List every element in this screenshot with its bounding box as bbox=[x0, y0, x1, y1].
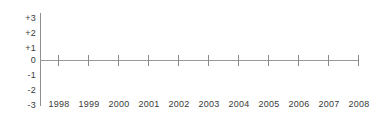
x-tick-label-2000: 2000 bbox=[109, 99, 130, 109]
x-tick-mark bbox=[208, 55, 209, 66]
x-tick-mark bbox=[178, 55, 179, 66]
y-tick-label-plus2: +2 bbox=[0, 29, 36, 38]
x-tick-label-2007: 2007 bbox=[319, 99, 340, 109]
chart-container: +3 +2 +1 0 -1 -2 -3 1998 1999 2000 2001 … bbox=[0, 0, 382, 120]
x-tick-label-2008: 2008 bbox=[349, 99, 370, 109]
y-tick-label-minus1: -1 bbox=[0, 71, 36, 80]
x-tick-label-2002: 2002 bbox=[169, 99, 190, 109]
x-tick-label-2001: 2001 bbox=[139, 99, 160, 109]
y-tick-label-minus2: -2 bbox=[0, 86, 36, 95]
x-tick-label-2006: 2006 bbox=[289, 99, 310, 109]
y-tick-label-plus3: +3 bbox=[0, 14, 36, 23]
x-tick-mark bbox=[298, 55, 299, 66]
x-tick-mark bbox=[328, 55, 329, 66]
x-tick-mark bbox=[58, 55, 59, 66]
y-tick-label-minus3: -3 bbox=[0, 101, 36, 110]
x-tick-mark bbox=[88, 55, 89, 66]
x-tick-mark bbox=[118, 55, 119, 66]
x-tick-label-2005: 2005 bbox=[259, 99, 280, 109]
x-tick-mark bbox=[358, 55, 359, 66]
x-tick-mark bbox=[268, 55, 269, 66]
x-tick-label-1998: 1998 bbox=[49, 99, 70, 109]
x-tick-mark bbox=[148, 55, 149, 66]
x-tick-label-2003: 2003 bbox=[199, 99, 220, 109]
x-tick-mark bbox=[238, 55, 239, 66]
plot-area: +3 +2 +1 0 -1 -2 -3 1998 1999 2000 2001 … bbox=[0, 0, 382, 120]
x-tick-label-1999: 1999 bbox=[79, 99, 100, 109]
y-tick-label-zero: 0 bbox=[0, 56, 36, 65]
y-tick-label-plus1: +1 bbox=[0, 44, 36, 53]
y-axis-labels: +3 +2 +1 0 -1 -2 -3 bbox=[0, 0, 36, 120]
x-tick-label-2004: 2004 bbox=[229, 99, 250, 109]
